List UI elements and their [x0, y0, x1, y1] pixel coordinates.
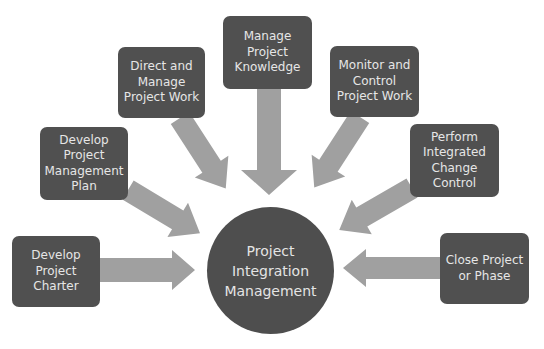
hub-project-integration-management: Project Integration Management — [207, 207, 334, 334]
process-perform-change-control: Perform Integrated Change Control — [410, 124, 499, 197]
arrow-plan-to-hub — [118, 173, 211, 251]
arrow-close-to-hub — [343, 249, 440, 287]
arrow-knowledge-to-hub — [241, 89, 297, 195]
process-manage-knowledge: Manage Project Knowledge — [223, 16, 312, 89]
arrow-monitor-to-hub — [297, 106, 376, 198]
arrow-charter-to-hub — [100, 250, 195, 290]
process-monitor-control-work: Monitor and Control Project Work — [330, 46, 419, 117]
arrow-change-to-hub — [329, 171, 422, 248]
process-close-project-phase: Close Project or Phase — [440, 233, 529, 304]
process-direct-manage-work: Direct and Manage Project Work — [118, 47, 205, 118]
process-develop-project-charter: Develop Project Charter — [12, 236, 100, 307]
process-develop-pm-plan: Develop Project Management Plan — [40, 127, 128, 200]
arrow-direct-to-hub — [163, 107, 242, 199]
